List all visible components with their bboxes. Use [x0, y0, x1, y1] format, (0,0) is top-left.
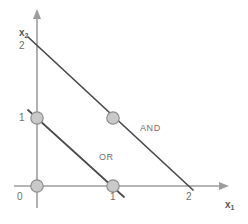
point-0-1 [31, 112, 43, 124]
plot-graphics [0, 0, 248, 224]
and-label: AND [140, 124, 161, 133]
y-axis [33, 9, 41, 208]
x-axis-label-sub: 1 [231, 204, 235, 211]
tick-x-2: 2 [186, 192, 192, 202]
x-axis-label-text: x [225, 199, 231, 210]
x-axis-label: x1 [225, 200, 234, 211]
y-axis-label: x2 [19, 28, 28, 39]
x-axis [14, 182, 229, 190]
or-label: OR [99, 153, 114, 162]
y-axis-label-text: x [19, 27, 25, 38]
tick-origin-0: 0 [17, 192, 23, 202]
tick-y-1: 1 [19, 113, 25, 123]
point-1-1 [107, 112, 119, 124]
tick-y-2: 2 [19, 41, 25, 51]
point-0-0 [31, 180, 43, 192]
plot-canvas: x2 x1 0 1 2 1 2 AND OR [0, 0, 248, 224]
tick-x-1: 1 [110, 192, 116, 202]
y-axis-label-sub: 2 [25, 32, 29, 39]
